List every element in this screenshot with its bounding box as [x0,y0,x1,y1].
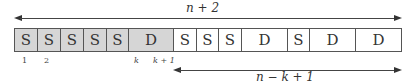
index-label: k + 1 [153,56,175,65]
cell-4: S [84,29,107,51]
arrow-right-icon [394,15,402,21]
top-span-label: n + 2 [186,1,219,15]
cell-8: S [197,29,219,51]
index-label: 2 [44,56,49,65]
cell-1: S [15,29,38,51]
cell-11: S [288,29,310,51]
cell-9: S [219,29,242,51]
cell-2: S [38,29,61,51]
index-label: 1 [22,56,27,65]
bottom-span-label: n − k + 1 [256,70,314,84]
cell-3: S [61,29,84,51]
index-label: k [134,56,139,65]
cell-12: D [310,29,356,51]
cell-13: D [356,29,401,51]
cell-7: S [174,29,197,51]
cell-strip: SSSSSDSSSDSDD [14,28,402,52]
arrow-right-icon [394,67,402,73]
top-span-line [20,18,394,19]
cell-6: D [129,29,174,51]
cell-10: D [242,29,288,51]
cell-5: S [107,29,129,51]
